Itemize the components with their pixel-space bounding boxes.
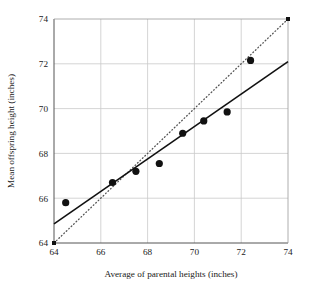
data-point: [200, 117, 207, 124]
y-tick-label: 64: [39, 238, 49, 248]
data-point: [247, 57, 254, 64]
data-point: [179, 130, 186, 137]
plot-canvas: 646668707274 646668707274 Average of par…: [0, 0, 311, 289]
scatter-plot-figure: 646668707274 646668707274 Average of par…: [0, 0, 311, 289]
data-point: [62, 199, 69, 206]
y-axis-title: Mean offspring height (inches): [6, 74, 16, 188]
y-tick-label: 68: [39, 149, 49, 159]
endpoint-marker: [286, 17, 290, 21]
endpoint-marker: [52, 241, 56, 245]
x-tick-label: 72: [237, 247, 247, 257]
x-tick-label: 70: [190, 247, 200, 257]
y-tick-label: 74: [39, 14, 49, 24]
y-tick-label: 66: [39, 194, 49, 204]
data-point: [224, 108, 231, 115]
x-tick-label: 66: [96, 247, 106, 257]
y-tick-label: 72: [39, 59, 49, 69]
x-tick-label: 64: [49, 247, 59, 257]
x-tick-label: 68: [143, 247, 153, 257]
data-point: [109, 179, 116, 186]
x-axis-title: Average of parental heights (inches): [105, 269, 238, 279]
data-point: [132, 168, 139, 175]
x-tick-label: 74: [283, 247, 293, 257]
y-tick-label: 70: [39, 104, 49, 114]
data-point: [156, 160, 163, 167]
